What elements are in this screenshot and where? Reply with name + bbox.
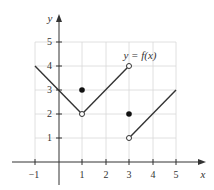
y-tick-label: 4 [47,60,52,71]
y-axis-arrow-icon [56,14,62,22]
x-tick-label: 2 [104,169,109,180]
x-tick-label: 4 [151,169,156,180]
open-points [80,64,132,141]
y-tick-label: 3 [47,84,52,95]
y-tick-label: 2 [47,108,52,119]
y-tick-label: 5 [47,36,52,47]
filled-points [79,87,132,117]
x-axis-label: x [200,168,206,180]
segment-1 [35,66,81,113]
function-curve [35,66,176,137]
function-label: y = f(x) [122,49,156,62]
y-tick-labels: 1 2 3 4 5 [47,36,52,143]
y-tick-label: 1 [47,132,52,143]
x-tick-label: −1 [29,169,40,180]
open-point [80,112,85,117]
filled-point [126,111,132,117]
x-tick-labels: −1 1 2 3 4 5 [29,169,179,180]
x-tick-label: 3 [127,169,132,180]
open-point [127,64,132,69]
x-axis-arrow-icon [198,159,206,165]
filled-point [79,87,85,93]
function-graph: −1 1 2 3 4 5 1 2 3 4 5 x y y = f(x) [0,0,214,190]
y-axis-label: y [47,12,53,24]
x-tick-label: 5 [174,169,179,180]
x-tick-label: 1 [80,169,85,180]
open-point [127,136,132,141]
